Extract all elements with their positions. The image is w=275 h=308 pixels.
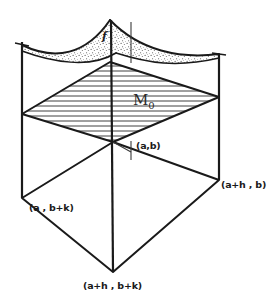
plane-m0-region <box>10 62 240 142</box>
label-surface-f: f <box>102 31 107 42</box>
label-corner-near: (a,b) <box>136 141 161 151</box>
label-plane-m0: M0 <box>133 93 154 111</box>
label-m0-base: M <box>133 91 148 109</box>
label-corner-left: (a , b+k) <box>29 203 74 213</box>
label-corner-right: (a+h , b) <box>221 180 266 190</box>
figure-container: f M0 (a,b) (a+h , b) (a , b+k) (a+h , b+… <box>0 0 275 308</box>
surface-f-region <box>22 20 219 63</box>
label-m0-subscript: 0 <box>148 100 154 111</box>
figure-drawing <box>0 0 275 308</box>
label-corner-far: (a+h , b+k) <box>83 281 142 291</box>
